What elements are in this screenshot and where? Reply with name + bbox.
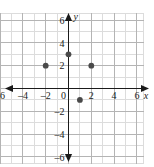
data-point (66, 51, 72, 57)
y-axis-name: y (73, 11, 79, 22)
data-point (88, 63, 94, 69)
x-axis-name: x (143, 90, 149, 101)
x-tick-label: –2 (40, 90, 51, 101)
x-tick-label: –4 (17, 90, 28, 101)
x-tick-label: –6 (0, 90, 5, 101)
y-tick-label: –4 (54, 129, 65, 140)
axis-arrowheads (5, 13, 149, 162)
x-tick-label: 6 (134, 90, 139, 101)
y-tick-label: –6 (54, 152, 65, 163)
coordinate-plane: –6–4–20246 642–2–4–6 xy (0, 0, 154, 167)
y-tick-label: 4 (60, 38, 65, 49)
x-tick-label: 0 (61, 90, 66, 101)
data-point (43, 63, 49, 69)
axis-lines (6, 14, 148, 161)
y-tick-label: 6 (60, 15, 65, 26)
x-axis-tick-labels: –6–4–20246 (0, 90, 139, 101)
data-point (77, 97, 83, 103)
y-tick-label: 2 (60, 60, 65, 71)
coordinate-plane-svg: –6–4–20246 642–2–4–6 xy (0, 0, 154, 167)
x-tick-label: 2 (89, 90, 94, 101)
y-tick-label: –2 (54, 106, 65, 117)
x-tick-label: 4 (112, 90, 117, 101)
